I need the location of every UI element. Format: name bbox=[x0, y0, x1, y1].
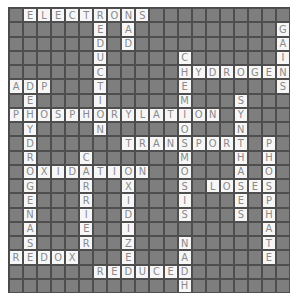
letter-cell[interactable]: D bbox=[37, 250, 51, 264]
letter-cell[interactable]: O bbox=[220, 179, 234, 193]
letter-cell[interactable]: I bbox=[107, 165, 121, 179]
letter-cell[interactable]: S bbox=[178, 179, 192, 193]
letter-cell[interactable]: E bbox=[248, 179, 262, 193]
letter-cell[interactable]: E bbox=[23, 8, 37, 22]
letter-cell[interactable]: X bbox=[37, 165, 51, 179]
letter-cell[interactable]: D bbox=[121, 265, 135, 279]
letter-cell[interactable]: O bbox=[37, 108, 51, 122]
letter-cell[interactable]: S bbox=[51, 108, 65, 122]
letter-cell[interactable]: I bbox=[121, 193, 135, 207]
letter-cell[interactable]: P bbox=[262, 136, 276, 150]
letter-cell[interactable]: C bbox=[93, 65, 107, 79]
letter-cell[interactable]: S bbox=[234, 208, 248, 222]
letter-cell[interactable]: D bbox=[178, 265, 192, 279]
letter-cell[interactable]: R bbox=[93, 8, 107, 22]
letter-cell[interactable]: L bbox=[135, 108, 149, 122]
letter-cell[interactable]: R bbox=[23, 151, 37, 165]
letter-cell[interactable]: R bbox=[79, 179, 93, 193]
letter-cell[interactable]: N bbox=[93, 122, 107, 136]
letter-cell[interactable]: H bbox=[234, 151, 248, 165]
letter-cell[interactable]: O bbox=[51, 250, 65, 264]
letter-cell[interactable]: S bbox=[234, 179, 248, 193]
letter-cell[interactable]: N bbox=[276, 65, 290, 79]
letter-cell[interactable]: H bbox=[262, 151, 276, 165]
letter-cell[interactable]: R bbox=[220, 136, 234, 150]
letter-cell[interactable]: O bbox=[234, 65, 248, 79]
letter-cell[interactable]: R bbox=[79, 236, 93, 250]
letter-cell[interactable]: C bbox=[149, 265, 163, 279]
letter-cell[interactable]: G bbox=[248, 65, 262, 79]
letter-cell[interactable]: D bbox=[121, 208, 135, 222]
letter-cell[interactable]: U bbox=[93, 51, 107, 65]
letter-cell[interactable]: E bbox=[23, 94, 37, 108]
letter-cell[interactable]: Y bbox=[121, 108, 135, 122]
letter-cell[interactable]: P bbox=[9, 108, 23, 122]
letter-cell[interactable]: O bbox=[178, 165, 192, 179]
letter-cell[interactable]: N bbox=[135, 165, 149, 179]
letter-cell[interactable]: M bbox=[178, 94, 192, 108]
letter-cell[interactable]: H bbox=[79, 108, 93, 122]
letter-cell[interactable]: I bbox=[121, 222, 135, 236]
letter-cell[interactable]: D bbox=[65, 165, 79, 179]
letter-cell[interactable]: T bbox=[164, 108, 178, 122]
letter-cell[interactable]: D bbox=[206, 65, 220, 79]
letter-cell[interactable]: E bbox=[93, 22, 107, 36]
letter-cell[interactable]: N bbox=[23, 208, 37, 222]
letter-cell[interactable]: R bbox=[220, 65, 234, 79]
letter-cell[interactable]: A bbox=[262, 222, 276, 236]
letter-cell[interactable]: E bbox=[107, 265, 121, 279]
letter-cell[interactable]: O bbox=[107, 8, 121, 22]
letter-cell[interactable]: I bbox=[79, 208, 93, 222]
letter-cell[interactable]: D bbox=[93, 37, 107, 51]
letter-cell[interactable]: A bbox=[121, 22, 135, 36]
letter-cell[interactable]: H bbox=[178, 65, 192, 79]
letter-cell[interactable]: N bbox=[234, 122, 248, 136]
letter-cell[interactable]: R bbox=[107, 108, 121, 122]
letter-cell[interactable]: L bbox=[206, 179, 220, 193]
letter-cell[interactable]: T bbox=[93, 79, 107, 93]
letter-cell[interactable]: A bbox=[234, 165, 248, 179]
letter-cell[interactable]: O bbox=[206, 136, 220, 150]
letter-cell[interactable]: I bbox=[276, 51, 290, 65]
letter-cell[interactable]: I bbox=[178, 193, 192, 207]
letter-cell[interactable]: C bbox=[178, 51, 192, 65]
letter-cell[interactable]: H bbox=[262, 208, 276, 222]
letter-cell[interactable]: X bbox=[121, 179, 135, 193]
letter-cell[interactable]: E bbox=[121, 250, 135, 264]
letter-cell[interactable]: O bbox=[121, 165, 135, 179]
letter-cell[interactable]: E bbox=[79, 222, 93, 236]
letter-cell[interactable]: R bbox=[93, 265, 107, 279]
letter-cell[interactable]: N bbox=[121, 8, 135, 22]
letter-cell[interactable]: S bbox=[262, 179, 276, 193]
letter-cell[interactable]: N bbox=[178, 236, 192, 250]
letter-cell[interactable]: E bbox=[178, 79, 192, 93]
letter-cell[interactable]: L bbox=[37, 8, 51, 22]
letter-cell[interactable]: E bbox=[23, 193, 37, 207]
letter-cell[interactable]: R bbox=[79, 193, 93, 207]
letter-cell[interactable]: S bbox=[276, 79, 290, 93]
letter-cell[interactable]: I bbox=[178, 108, 192, 122]
letter-cell[interactable]: A bbox=[178, 250, 192, 264]
letter-cell[interactable]: E bbox=[23, 250, 37, 264]
letter-cell[interactable]: E bbox=[234, 193, 248, 207]
letter-cell[interactable]: G bbox=[23, 179, 37, 193]
letter-cell[interactable]: P bbox=[65, 108, 79, 122]
letter-cell[interactable]: T bbox=[234, 136, 248, 150]
letter-cell[interactable]: T bbox=[262, 236, 276, 250]
letter-cell[interactable]: P bbox=[192, 136, 206, 150]
letter-cell[interactable]: C bbox=[79, 151, 93, 165]
letter-cell[interactable]: A bbox=[149, 136, 163, 150]
letter-cell[interactable]: E bbox=[262, 65, 276, 79]
letter-cell[interactable]: M bbox=[178, 151, 192, 165]
letter-cell[interactable]: D bbox=[23, 79, 37, 93]
letter-cell[interactable]: P bbox=[37, 79, 51, 93]
letter-cell[interactable]: O bbox=[192, 108, 206, 122]
letter-cell[interactable]: O bbox=[93, 108, 107, 122]
letter-cell[interactable]: S bbox=[178, 208, 192, 222]
letter-cell[interactable]: S bbox=[178, 136, 192, 150]
letter-cell[interactable]: N bbox=[206, 108, 220, 122]
letter-cell[interactable]: G bbox=[276, 22, 290, 36]
letter-cell[interactable]: D bbox=[121, 37, 135, 51]
letter-cell[interactable]: H bbox=[178, 279, 192, 293]
letter-cell[interactable]: A bbox=[79, 165, 93, 179]
